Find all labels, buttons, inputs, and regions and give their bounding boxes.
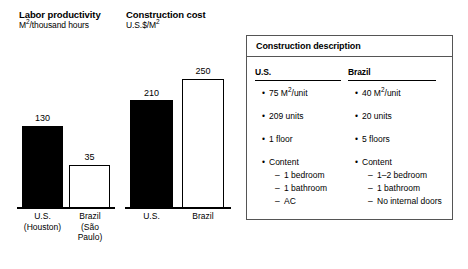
bar-value-210: 210 <box>130 88 173 98</box>
panel-column-brazil: Brazil <box>348 67 436 81</box>
panel-column-us-rule <box>255 80 341 81</box>
chart-2-category-0-line1: U.S. <box>130 211 173 222</box>
panel-brazil-item-1: •20 units <box>355 111 392 121</box>
panel-us-item-1-text: 209 units <box>269 111 304 121</box>
chart-1-category-1-line1: Brazil <box>66 211 114 222</box>
chart-1-title: Labor productivity <box>19 9 101 20</box>
panel-us-item-1: •209 units <box>262 111 304 121</box>
chart-2-category-1-line1: Brazil <box>182 211 224 222</box>
panel-us-item-0: •75 M2/unit <box>262 88 308 98</box>
bullet-icon: • <box>355 157 362 167</box>
chart-2-category-label-1: Brazil <box>182 211 224 222</box>
chart-1-subtitle: M2/thousand hours <box>19 20 101 31</box>
dash-icon: – <box>368 196 377 206</box>
chart-2-category-label-0: U.S. <box>130 211 173 222</box>
chart-2-title: Construction cost <box>126 9 206 20</box>
panel-brazil-item-2: •5 floors <box>355 134 390 144</box>
bar-us-cost[interactable] <box>130 100 173 208</box>
chart-2-subtitle-superscript: 2 <box>156 18 160 25</box>
bar-value-35: 35 <box>69 152 110 162</box>
panel-brazil-item-0: •40 M2/unit <box>355 88 401 98</box>
chart-2-subtitle-prefix: U.S.$/M <box>126 20 156 30</box>
chart-2-heading: Construction cost U.S.$/M2 <box>126 9 206 31</box>
bullet-icon: • <box>262 111 269 121</box>
chart-1-subtitle-prefix: M <box>19 20 26 30</box>
panel-us-item-2-text: 1 floor <box>269 134 293 144</box>
chart-2-axis <box>125 207 231 209</box>
chart-1-category-0-line2: (Houston) <box>17 222 68 233</box>
bullet-icon: • <box>355 88 362 98</box>
chart-1-category-label-0: U.S. (Houston) <box>17 211 68 232</box>
dash-icon: – <box>275 170 284 180</box>
dash-icon: – <box>275 183 284 193</box>
panel-brazil-item-3: •Content <box>355 157 392 167</box>
panel-brazil-item-3-text: Content <box>362 157 392 167</box>
panel-header-title: Construction description <box>247 36 452 51</box>
bar-value-250: 250 <box>182 66 224 76</box>
bar-brazil-sao-paulo[interactable] <box>69 165 110 208</box>
bar-us-houston[interactable] <box>22 126 63 208</box>
panel-brazil-item-0-text: 40 M <box>362 88 381 98</box>
panel-brazil-item-3-sub-0: –1–2 bedroom <box>368 170 427 180</box>
panel-us-item-3-sub-0-text: 1 bedroom <box>284 170 325 180</box>
panel-us-item-3-sub-2: –AC <box>275 196 296 206</box>
panel-column-brazil-heading: Brazil <box>348 67 436 77</box>
dash-icon: – <box>275 196 284 206</box>
panel-brazil-item-1-text: 20 units <box>362 111 392 121</box>
dash-icon: – <box>368 170 377 180</box>
panel-brazil-item-3-sub-1-text: 1 bathroom <box>377 183 420 193</box>
panel-column-brazil-rule <box>348 80 436 81</box>
dash-icon: – <box>368 183 377 193</box>
bullet-icon: • <box>262 134 269 144</box>
chart-1-category-1-line2: (São <box>66 222 114 233</box>
chart-1-category-1-line3: Paulo) <box>66 232 114 243</box>
panel-column-us-heading: U.S. <box>255 67 341 77</box>
panel-header-divider <box>247 56 452 57</box>
panel-us-item-2: •1 floor <box>262 134 293 144</box>
chart-1-subtitle-suffix: /thousand hours <box>30 20 89 30</box>
panel-us-item-3-sub-0: –1 bedroom <box>275 170 325 180</box>
panel-us-item-3: •Content <box>262 157 299 167</box>
panel-brazil-item-3-sub-1: –1 bathroom <box>368 183 420 193</box>
panel-brazil-item-3-sub-0-text: 1–2 bedroom <box>377 170 427 180</box>
panel-brazil-item-3-sub-2: –No internal doors <box>368 196 442 206</box>
chart-1-axis <box>17 207 115 209</box>
chart-1-heading: Labor productivity M2/thousand hours <box>19 9 101 31</box>
panel-us-item-0-text: 75 M <box>269 88 288 98</box>
panel-brazil-item-2-text: 5 floors <box>362 134 390 144</box>
panel-brazil-item-3-sub-2-text: No internal doors <box>377 196 442 206</box>
chart-1-category-0-line1: U.S. <box>17 211 68 222</box>
chart-1-category-label-1: Brazil (São Paulo) <box>66 211 114 243</box>
panel-us-item-3-sub-1: –1 bathroom <box>275 183 327 193</box>
bar-brazil-cost[interactable] <box>182 79 224 208</box>
bar-value-130: 130 <box>22 113 63 123</box>
chart-2-subtitle: U.S.$/M2 <box>126 20 206 31</box>
panel-brazil-item-0-suffix: /unit <box>385 88 401 98</box>
panel-column-us: U.S. <box>255 67 341 81</box>
bullet-icon: • <box>355 111 362 121</box>
panel-us-item-3-sub-2-text: AC <box>284 196 296 206</box>
panel-us-item-0-suffix: /unit <box>292 88 308 98</box>
panel-us-item-3-text: Content <box>269 157 299 167</box>
bullet-icon: • <box>262 88 269 98</box>
bullet-icon: • <box>355 134 362 144</box>
bullet-icon: • <box>262 157 269 167</box>
panel-us-item-3-sub-1-text: 1 bathroom <box>284 183 327 193</box>
